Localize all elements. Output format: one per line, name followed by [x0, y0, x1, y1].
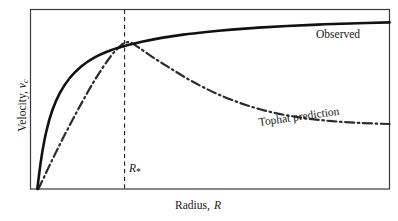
figure-root: Velocity,vc Radius,R Observed Tophat pre…	[0, 0, 398, 221]
x-axis-label-prefix: Radius,	[175, 199, 210, 211]
y-axis-label-symbol: v	[16, 83, 28, 88]
rstar-symbol: R	[129, 162, 136, 174]
rstar-subscript: *	[136, 166, 141, 177]
y-axis-label-subscript: c	[21, 79, 30, 83]
observed-curve-label: Observed	[316, 29, 360, 41]
y-axis-label-prefix: Velocity,	[16, 91, 28, 131]
x-axis-label: Radius,R	[138, 200, 258, 212]
rstar-tick-label: R*	[129, 163, 141, 177]
x-axis-label-symbol: R	[214, 199, 221, 211]
y-axis-label: Velocity,vc	[17, 46, 30, 166]
